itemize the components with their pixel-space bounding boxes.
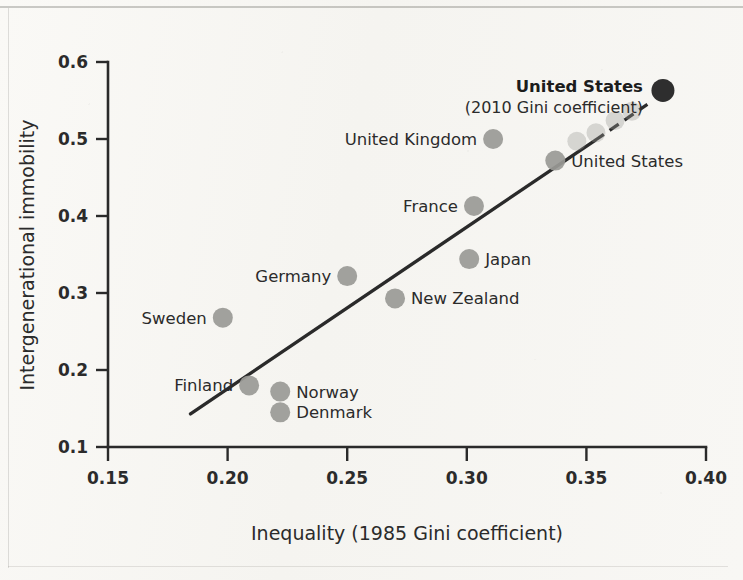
y-tick-label: 0.4 bbox=[58, 206, 88, 226]
y-axis-ticks bbox=[96, 62, 108, 447]
y-axis-tick-labels: 0.10.20.30.40.50.6 bbox=[58, 52, 88, 457]
data-point bbox=[213, 308, 233, 328]
y-tick-label: 0.1 bbox=[58, 437, 88, 457]
x-tick-label: 0.30 bbox=[446, 468, 488, 488]
data-point-label: Japan bbox=[484, 250, 531, 269]
data-point bbox=[459, 249, 479, 269]
data-point bbox=[270, 402, 290, 422]
data-point bbox=[337, 266, 357, 286]
data-point-label: United States bbox=[571, 152, 683, 171]
x-tick-label: 0.35 bbox=[565, 468, 607, 488]
data-point bbox=[483, 129, 503, 149]
faint-data-point bbox=[567, 132, 586, 151]
data-point bbox=[239, 375, 259, 395]
data-point bbox=[464, 196, 484, 216]
x-tick-label: 0.15 bbox=[87, 468, 129, 488]
y-tick-label: 0.3 bbox=[58, 283, 88, 303]
y-axis-title: Intergenerational immobility bbox=[16, 119, 38, 390]
data-point-label: Norway bbox=[296, 383, 359, 402]
x-axis-tick-labels: 0.150.200.250.300.350.40 bbox=[87, 468, 727, 488]
data-point bbox=[385, 288, 405, 308]
chart-page: 0.10.20.30.40.50.6 0.150.200.250.300.350… bbox=[0, 0, 743, 580]
highlight-data-point bbox=[651, 79, 674, 102]
x-tick-label: 0.25 bbox=[326, 468, 368, 488]
data-point-label: Finland bbox=[174, 376, 233, 395]
data-point-label: Denmark bbox=[296, 403, 372, 422]
y-tick-label: 0.6 bbox=[58, 52, 88, 72]
data-point-label: Germany bbox=[255, 267, 331, 286]
x-axis-title: Inequality (1985 Gini coefficient) bbox=[251, 522, 563, 544]
highlight-annotation-subtitle: (2010 Gini coefficient) bbox=[465, 98, 643, 117]
faint-data-point bbox=[586, 123, 605, 142]
data-point-label: New Zealand bbox=[411, 289, 519, 308]
highlight-marker bbox=[651, 79, 674, 102]
trendline-solid bbox=[191, 141, 595, 414]
y-tick-label: 0.5 bbox=[58, 129, 88, 149]
x-tick-label: 0.20 bbox=[207, 468, 249, 488]
x-axis-ticks bbox=[108, 447, 706, 461]
data-point bbox=[270, 382, 290, 402]
data-point bbox=[545, 151, 565, 171]
scatter-plot: 0.10.20.30.40.50.6 0.150.200.250.300.350… bbox=[0, 0, 743, 580]
data-point-labels: DenmarkNorwayFinlandSwedenNew ZealandGer… bbox=[142, 130, 683, 422]
x-tick-label: 0.40 bbox=[685, 468, 727, 488]
data-point-label: France bbox=[403, 197, 458, 216]
y-tick-label: 0.2 bbox=[58, 360, 88, 380]
highlight-annotation-title: United States bbox=[516, 77, 643, 96]
data-point-label: Sweden bbox=[142, 309, 207, 328]
data-point-label: United Kingdom bbox=[345, 130, 477, 149]
highlight-annotation: United States(2010 Gini coefficient) bbox=[465, 77, 643, 117]
